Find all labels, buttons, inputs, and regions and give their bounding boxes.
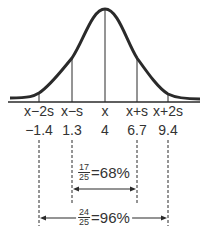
label-suffix: −2s bbox=[31, 103, 54, 119]
normal-curve-diagram bbox=[0, 0, 212, 240]
xbar-symbol: x bbox=[153, 103, 160, 119]
fraction: 24 25 bbox=[78, 208, 90, 227]
percentage-text: =96% bbox=[91, 209, 130, 226]
fraction-denominator: 25 bbox=[79, 218, 89, 227]
value-minus-s: 1.3 bbox=[62, 123, 81, 137]
percentage-text: =68% bbox=[91, 164, 130, 181]
label-suffix: +2s bbox=[160, 103, 183, 119]
fraction-denominator: 25 bbox=[79, 173, 89, 182]
xbar-symbol: x bbox=[24, 103, 31, 119]
label-mean-plus-2s: x+2s bbox=[153, 104, 183, 118]
xbar-symbol: x bbox=[61, 103, 68, 119]
xbar-symbol: x bbox=[126, 103, 133, 119]
label-mean-minus-s: x−s bbox=[61, 104, 83, 118]
value-mean: 4 bbox=[101, 123, 109, 137]
fraction: 17 25 bbox=[78, 163, 90, 182]
value-plus-s: 6.7 bbox=[127, 123, 146, 137]
one-sd-percentage-label: 17 25 =68% bbox=[76, 163, 132, 182]
xbar-symbol: x bbox=[102, 103, 109, 119]
value-plus-2s: 9.4 bbox=[158, 123, 177, 137]
label-mean: x bbox=[102, 104, 109, 118]
value-minus-2s: −1.4 bbox=[25, 123, 53, 137]
label-mean-minus-2s: x−2s bbox=[24, 104, 54, 118]
two-sd-percentage-label: 24 25 =96% bbox=[76, 208, 132, 227]
one-sd-range-arrow bbox=[73, 187, 136, 192]
label-suffix: −s bbox=[68, 103, 83, 119]
label-mean-plus-s: x+s bbox=[126, 104, 148, 118]
label-suffix: +s bbox=[133, 103, 148, 119]
